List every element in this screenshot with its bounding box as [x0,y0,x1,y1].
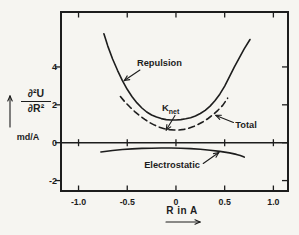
y-axis-fraction: ∂²U ∂R² [21,88,51,114]
y-tick-label: 2 [52,100,57,110]
y-axis-numerator: ∂²U [21,88,51,101]
chart-plot: -1.0-0.500.51.0420-2RepulsionKnetTotalEl… [0,0,299,235]
x-tick-label: -1.0 [71,197,86,207]
y-axis-denominator: ∂R² [21,101,51,115]
x-tick-label: -0.5 [120,197,135,207]
annotation-label-repulsion: Repulsion [137,58,182,68]
x-tick-label: 0.5 [219,197,231,207]
y-tick-label: -2 [49,176,57,186]
y-tick-label: 4 [52,62,57,72]
x-axis-label: R in A [158,205,206,216]
annotation-arrow-total [216,115,234,122]
annotation-arrow-repulsion [124,70,140,81]
x-tick-label: 1.0 [267,197,279,207]
y-tick-label: 0 [52,138,57,148]
annotation-label-electrostatic: Electrostatic [144,160,200,170]
annotation-arrow-electrostatic [203,153,219,164]
annotation-arrow-knet [166,115,175,130]
annotation-label-total: Total [235,120,257,130]
curve-electrostatic [101,148,244,157]
y-axis-unit: md/A [11,132,45,142]
figure-canvas: -1.0-0.500.51.0420-2RepulsionKnetTotalEl… [0,0,299,235]
annotation-label-knet: Knet [162,102,180,115]
